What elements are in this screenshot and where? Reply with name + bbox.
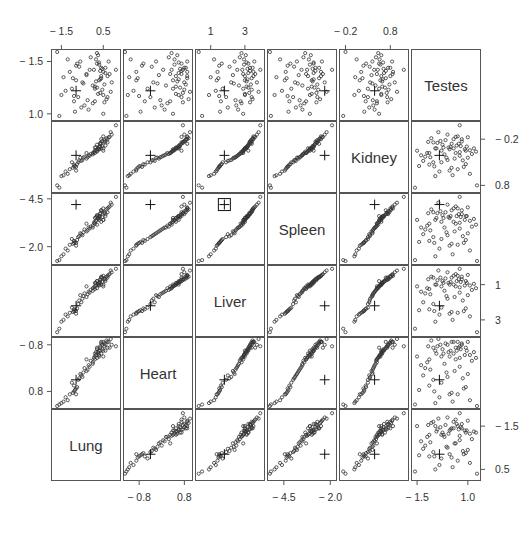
diag-panel-liver: Liver [196,266,265,337]
variable-label: Spleen [279,221,326,238]
panel-spleen-vs-liver [196,194,265,265]
panel-frame [52,338,121,409]
panel-lung-vs-liver [196,410,265,481]
panel-heart-vs-kidney [340,337,409,408]
axis-tick-label-left: 1.0 [28,108,43,120]
panel-lung-vs-testes [412,410,481,481]
variable-label: Liver [214,293,247,310]
panel-frame [52,50,121,121]
diag-panel-testes: Testes [412,50,481,121]
axis-tick-label-top: 0.8 [383,25,398,37]
diag-panel-heart: Heart [124,338,193,409]
panel-kidney-vs-heart [123,122,192,193]
panel-testes-vs-liver [196,50,265,121]
panel-liver-vs-testes [412,266,481,337]
panel-testes-vs-spleen [268,50,337,121]
axis-tick-label-right: 1 [495,279,501,291]
variable-label: Testes [424,77,467,94]
axis-tick-label-right: 0.8 [495,179,510,191]
axis-tick-label-top: 1 [208,25,214,37]
panel-lung-vs-spleen [268,410,337,481]
panel-testes-vs-heart [123,50,192,121]
scatterplot-matrix: TestesKidneySpleenLiverHeartLung− 1.50.5… [0,0,529,539]
panel-heart-vs-lung [52,337,121,408]
axis-tick-label-bottom: − 2.0 [318,491,342,503]
axis-tick-label-top: 0.5 [96,25,111,37]
panel-kidney-vs-lung [52,122,121,193]
variable-label: Kidney [351,149,397,166]
axis-tick-label-right: 3 [495,314,501,326]
panel-spleen-vs-lung [52,194,121,265]
axis-tick-label-top: − 0.2 [334,25,358,37]
panel-heart-vs-liver [196,337,265,408]
axis-tick-label-top: 3 [242,25,248,37]
panel-kidney-vs-testes [412,122,481,193]
axis-tick-label-left: − 0.8 [19,339,43,351]
panel-frame [268,338,337,409]
axis-tick-label-bottom: 0.8 [177,491,192,503]
panel-frame [268,50,337,121]
axis-tick-label-right: − 1.5 [495,420,519,432]
variable-label: Lung [69,437,102,454]
panel-frame [412,338,481,409]
panel-frame [196,122,265,193]
panel-heart-vs-testes [412,337,481,408]
variable-label: Heart [140,365,178,382]
diag-panel-spleen: Spleen [268,194,337,265]
panel-liver-vs-spleen [268,266,337,337]
axis-tick-label-left: − 1.5 [19,55,43,67]
axis-tick-label-right: − 0.2 [495,133,519,145]
panel-frame [196,338,265,409]
panel-spleen-vs-heart [123,194,192,265]
panel-liver-vs-lung [52,266,121,337]
panel-lung-vs-kidney [340,410,409,481]
axis-tick-label-left: − 2.0 [19,241,43,253]
axis-tick-label-right: 0.5 [495,463,510,475]
axis-tick-label-bottom: − 1.5 [405,491,429,503]
axis-tick-label-left: − 4.5 [19,193,43,205]
panel-spleen-vs-testes [412,194,481,265]
panel-heart-vs-spleen [268,337,337,408]
panel-frame [340,266,409,337]
panel-frame [124,194,193,265]
panel-lung-vs-heart [123,410,192,481]
panel-kidney-vs-spleen [268,122,337,193]
panel-liver-vs-heart [123,266,192,337]
panel-testes-vs-lung [52,50,121,121]
panel-liver-vs-kidney [340,266,409,337]
axis-tick-label-bottom: 1.0 [461,491,476,503]
diag-panel-lung: Lung [52,410,121,481]
diag-panel-kidney: Kidney [340,122,409,193]
panel-testes-vs-kidney [340,50,409,121]
axis-tick-label-top: − 1.5 [50,25,74,37]
axis-tick-label-left: 0.8 [28,385,43,397]
axis-tick-label-bottom: − 4.5 [272,491,296,503]
panel-kidney-vs-liver [196,122,265,193]
axis-tick-label-bottom: − 0.8 [127,491,151,503]
panel-frame [268,266,337,337]
panel-spleen-vs-kidney [340,194,409,265]
